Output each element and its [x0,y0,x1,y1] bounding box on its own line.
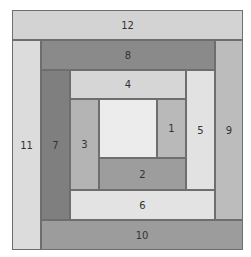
patch-10: 10 [41,220,243,250]
patch-3: 3 [70,99,99,190]
patch-9: 9 [215,40,243,220]
patch-8: 8 [41,40,215,70]
patch-6: 6 [70,190,215,220]
patch-4: 4 [70,70,186,99]
patch-5: 5 [186,70,215,190]
patch-1: 1 [157,99,186,158]
patch-7: 7 [41,70,70,220]
patch-center [99,99,157,158]
patch-11: 11 [12,40,41,250]
patch-12: 12 [12,10,243,40]
patch-2: 2 [99,158,186,190]
